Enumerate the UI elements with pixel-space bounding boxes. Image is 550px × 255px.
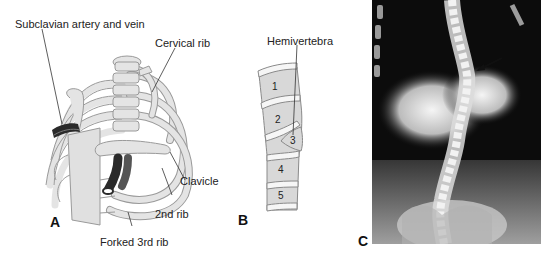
cervical-rib-label: Cervical rib <box>155 38 210 49</box>
vertebra-3-number: 3 <box>290 135 296 146</box>
forked-third-rib-label: Forked 3rd rib <box>100 237 168 248</box>
panel-b-letter: B <box>238 213 248 227</box>
vertebra-1-number: 1 <box>272 81 278 92</box>
clavicle-label: Clavicle <box>180 176 219 187</box>
vertebra-4-number: 4 <box>278 164 284 175</box>
second-rib-label: 2nd rib <box>155 209 189 220</box>
panel-a-letter: A <box>50 215 60 229</box>
rib-cage-illustration <box>0 20 230 235</box>
subclavian-artery-vein-label: Subclavian artery and vein <box>15 19 145 30</box>
vertebra-2-number: 2 <box>275 114 281 125</box>
vertebra-5-number: 5 <box>278 190 284 201</box>
panel-c-letter: C <box>358 234 368 248</box>
spine-segment-illustration: 1 2 3 4 5 <box>245 45 315 215</box>
scoliosis-xray-image <box>372 0 541 244</box>
hemivertebra-label: Hemivertebra <box>267 36 333 47</box>
